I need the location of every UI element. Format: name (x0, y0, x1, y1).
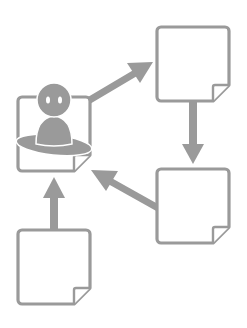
arrow-up-right (88, 62, 153, 101)
document-icon (157, 27, 229, 101)
document-icon (157, 169, 229, 243)
arrow-up-left (91, 170, 158, 208)
document-icon (18, 230, 90, 304)
document-top-right (157, 27, 229, 101)
document-mid-right (157, 169, 229, 243)
flow-diagram (0, 0, 247, 328)
arrow-up (43, 177, 65, 231)
arrow-down (182, 101, 204, 164)
document-bottom-left (18, 230, 90, 304)
